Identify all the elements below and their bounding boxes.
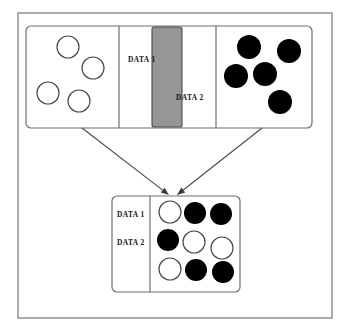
data2-marker-1 — [237, 35, 261, 59]
figure-canvas: DATA 1DATA 2DATA 1DATA 2 — [0, 0, 348, 334]
fused-marker-r1c2 — [184, 202, 206, 224]
data1-marker-3 — [37, 82, 59, 104]
fused-marker-r2c1 — [157, 229, 179, 251]
overlap-gray-band — [152, 27, 182, 127]
fused-marker-r3c2 — [185, 259, 207, 281]
data2-marker-2 — [277, 39, 301, 63]
fused-marker-r3c1 — [159, 258, 181, 280]
fused-marker-r2c3 — [211, 237, 233, 259]
top-panel-data1-label: DATA 1 — [128, 55, 156, 64]
bottom-panel-label-2: DATA 2 — [117, 238, 145, 247]
arrow-from-data1-head — [161, 188, 169, 195]
fused-marker-r1c1 — [159, 201, 181, 223]
fused-marker-r1c3 — [210, 203, 232, 225]
arrow-from-data2-line — [183, 128, 262, 190]
data2-marker-5 — [268, 90, 292, 114]
arrow-from-data2-head — [177, 188, 185, 195]
bottom-panel-label-1: DATA 1 — [117, 210, 145, 219]
diagram-svg: DATA 1DATA 2DATA 1DATA 2 — [0, 0, 348, 334]
fused-marker-r3c3 — [212, 261, 234, 283]
top-panel-data2-label: DATA 2 — [176, 93, 204, 102]
data1-marker-2 — [82, 57, 104, 79]
fused-marker-r2c2 — [183, 231, 205, 253]
data1-marker-4 — [68, 90, 90, 112]
data2-marker-4 — [253, 62, 277, 86]
data2-marker-3 — [224, 64, 248, 88]
arrow-from-data1-line — [82, 128, 163, 190]
data1-marker-1 — [57, 36, 79, 58]
